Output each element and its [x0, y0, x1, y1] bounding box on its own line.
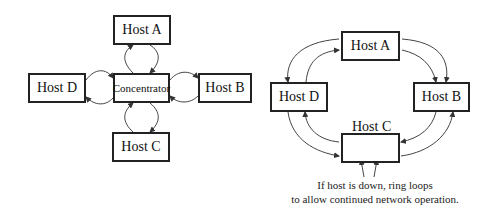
- star-host-a: Host A: [113, 15, 171, 45]
- ring-caption: If host is down, ring loops to allow con…: [290, 178, 460, 206]
- caption-line-1: If host is down, ring loops: [290, 178, 460, 192]
- ring-host-a: Host A: [341, 31, 400, 61]
- ring-host-d: Host D: [270, 82, 328, 112]
- star-host-b: Host B: [198, 73, 252, 103]
- star-host-d: Host D: [28, 73, 86, 103]
- caption-line-2: to allow continued network operation.: [290, 192, 460, 206]
- ring-host-b: Host B: [413, 82, 470, 112]
- star-host-c: Host C: [112, 132, 170, 162]
- star-concentrator: Concentrator: [113, 73, 170, 103]
- ring-host-c: [341, 133, 400, 163]
